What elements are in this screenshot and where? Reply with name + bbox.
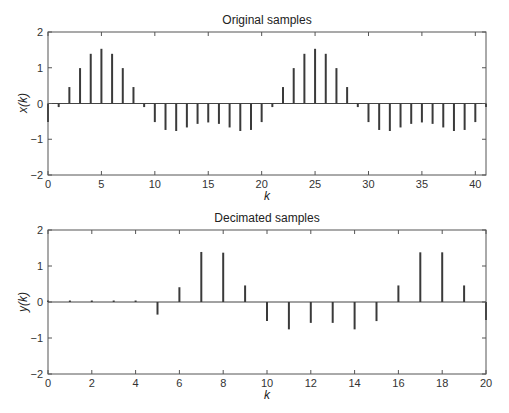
y-tick-label: 2 — [37, 26, 43, 38]
y-tick-label: 0 — [37, 296, 43, 308]
x-tick-label: 6 — [176, 377, 182, 389]
x-tick-label: 20 — [256, 178, 268, 190]
x-tick-label: 10 — [261, 377, 273, 389]
stem-series — [48, 49, 486, 131]
x-tick-label: 40 — [469, 178, 481, 190]
x-tick-label: 15 — [202, 178, 214, 190]
y-tick-label: 0 — [37, 98, 43, 110]
x-axis-label: k — [264, 388, 271, 402]
x-tick-label: 18 — [436, 377, 448, 389]
x-tick-label: 20 — [480, 377, 492, 389]
x-tick-label: 14 — [348, 377, 360, 389]
y-tick-label: −2 — [30, 368, 43, 380]
axis-ticks: 02468101214161820−2−1012 — [30, 224, 492, 389]
x-tick-label: 8 — [220, 377, 226, 389]
y-tick-label: −2 — [30, 169, 43, 181]
x-tick-label: 10 — [149, 178, 161, 190]
axis-ticks: 0510152025303540−2−1012 — [30, 26, 486, 190]
plot-title: Decimated samples — [214, 211, 319, 225]
y-tick-label: 1 — [37, 260, 43, 272]
x-tick-label: 30 — [362, 178, 374, 190]
chart-canvas: Original samples k x(k) 0510152025303540… — [0, 0, 509, 413]
decimated-samples-plot: Decimated samples k y(k) 024681012141618… — [16, 211, 492, 402]
y-tick-label: −1 — [30, 332, 43, 344]
x-tick-label: 12 — [305, 377, 317, 389]
plot-title: Original samples — [222, 13, 311, 27]
x-tick-label: 0 — [45, 178, 51, 190]
y-tick-label: −1 — [30, 133, 43, 145]
x-tick-label: 5 — [98, 178, 104, 190]
y-tick-label: 2 — [37, 224, 43, 236]
y-axis-label: x(k) — [16, 93, 30, 114]
stem-series — [48, 252, 486, 329]
y-axis-label: y(k) — [16, 292, 30, 313]
original-samples-plot: Original samples k x(k) 0510152025303540… — [16, 13, 486, 203]
y-tick-label: 1 — [37, 62, 43, 74]
x-tick-label: 2 — [89, 377, 95, 389]
x-tick-label: 25 — [309, 178, 321, 190]
x-tick-label: 16 — [392, 377, 404, 389]
x-axis-label: k — [264, 189, 271, 203]
figure: Original samples k x(k) 0510152025303540… — [0, 0, 509, 413]
x-tick-label: 35 — [416, 178, 428, 190]
x-tick-label: 4 — [133, 377, 139, 389]
x-tick-label: 0 — [45, 377, 51, 389]
